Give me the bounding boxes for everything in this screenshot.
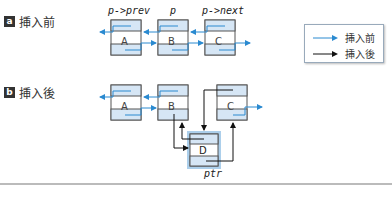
legend-after: 挿入後	[313, 46, 375, 61]
node-b-after-label: B	[168, 101, 175, 112]
node-c-label: C	[215, 36, 222, 47]
black-arrow-icon	[313, 50, 339, 58]
legend-before: 挿入前	[313, 30, 375, 45]
node-c-after-label: C	[227, 101, 234, 112]
legend-after-label: 挿入後	[345, 46, 375, 61]
node-d-label: D	[199, 145, 207, 156]
node-a-label: A	[121, 36, 128, 47]
legend: 挿入前 挿入後	[304, 24, 384, 63]
blue-arrow-icon	[313, 34, 339, 42]
legend-before-label: 挿入前	[345, 30, 375, 45]
node-b-label: B	[168, 36, 175, 47]
divider	[0, 183, 392, 185]
node-a-after-label: A	[121, 101, 128, 112]
